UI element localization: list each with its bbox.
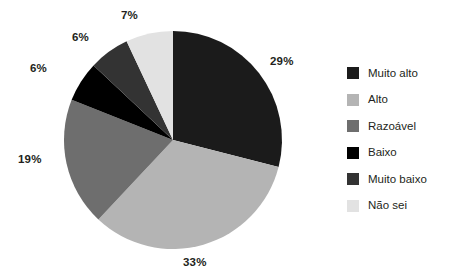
legend-item-label: Não sei [368,200,407,212]
legend-swatch-icon [347,173,359,185]
slice-label-razoavel: 19% [18,154,42,166]
legend-item-label: Razoável [368,121,416,133]
legend-item[interactable]: Muito alto [347,60,466,87]
legend-item[interactable]: Muito baixo [347,166,466,193]
legend-item-label: Alto [368,94,388,106]
slice-label-alto: 33% [183,257,207,269]
slice-label-muito-baixo: 6% [72,32,89,44]
pie-chart-area: 29% 33% 19% 6% 6% 7% [0,0,340,277]
legend-swatch-icon [347,67,359,79]
legend-item[interactable]: Alto [347,87,466,114]
legend-swatch-icon [347,147,359,159]
legend-item-label: Muito baixo [368,174,427,186]
pie-chart-svg [0,0,340,277]
slice-label-muito-alto: 29% [270,56,294,68]
chart-legend: Muito altoAltoRazoávelBaixoMuito baixoNã… [347,60,466,219]
legend-swatch-icon [347,94,359,106]
legend-item[interactable]: Não sei [347,193,466,220]
legend-swatch-icon [347,200,359,212]
slice-label-nao-sei: 7% [121,10,138,22]
legend-swatch-icon [347,120,359,132]
legend-item-label: Baixo [368,147,397,159]
pie-chart-figure: 29% 33% 19% 6% 6% 7% Muito altoAltoRazoá… [0,0,466,277]
legend-item[interactable]: Baixo [347,140,466,167]
legend-item[interactable]: Razoável [347,113,466,140]
legend-item-label: Muito alto [368,68,418,80]
slice-label-baixo: 6% [30,63,47,75]
